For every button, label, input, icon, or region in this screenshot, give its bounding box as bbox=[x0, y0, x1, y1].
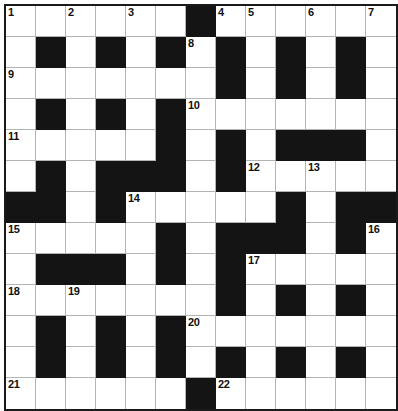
crossword-cell[interactable] bbox=[306, 285, 336, 316]
crossword-cell[interactable] bbox=[6, 316, 36, 347]
crossword-cell[interactable] bbox=[66, 99, 96, 130]
crossword-cell[interactable] bbox=[126, 37, 156, 68]
crossword-cell[interactable] bbox=[36, 130, 66, 161]
crossword-cell[interactable] bbox=[276, 99, 306, 130]
crossword-cell[interactable] bbox=[336, 254, 366, 285]
crossword-cell[interactable] bbox=[306, 316, 336, 347]
crossword-cell[interactable] bbox=[96, 68, 126, 99]
crossword-cell[interactable] bbox=[66, 68, 96, 99]
crossword-cell[interactable] bbox=[36, 68, 66, 99]
crossword-cell[interactable]: 14 bbox=[126, 192, 156, 223]
crossword-grid[interactable]: 12345678910111213141516171819202122 bbox=[4, 4, 398, 411]
crossword-cell[interactable] bbox=[186, 161, 216, 192]
crossword-cell[interactable] bbox=[126, 285, 156, 316]
crossword-cell[interactable] bbox=[246, 347, 276, 378]
crossword-cell[interactable] bbox=[336, 161, 366, 192]
crossword-cell[interactable] bbox=[126, 99, 156, 130]
crossword-cell[interactable] bbox=[66, 378, 96, 409]
crossword-cell[interactable]: 11 bbox=[6, 130, 36, 161]
crossword-cell[interactable] bbox=[66, 347, 96, 378]
crossword-cell[interactable] bbox=[66, 192, 96, 223]
crossword-cell[interactable] bbox=[186, 223, 216, 254]
crossword-cell[interactable]: 21 bbox=[6, 378, 36, 409]
crossword-cell[interactable] bbox=[156, 192, 186, 223]
crossword-cell[interactable]: 12 bbox=[246, 161, 276, 192]
crossword-cell[interactable] bbox=[366, 37, 396, 68]
crossword-cell[interactable] bbox=[366, 316, 396, 347]
crossword-cell[interactable] bbox=[186, 192, 216, 223]
crossword-cell[interactable]: 20 bbox=[186, 316, 216, 347]
crossword-cell[interactable] bbox=[246, 99, 276, 130]
crossword-cell[interactable] bbox=[246, 68, 276, 99]
crossword-cell[interactable] bbox=[36, 6, 66, 37]
crossword-cell[interactable]: 3 bbox=[126, 6, 156, 37]
crossword-cell[interactable] bbox=[96, 223, 126, 254]
crossword-cell[interactable]: 13 bbox=[306, 161, 336, 192]
crossword-cell[interactable] bbox=[306, 99, 336, 130]
crossword-cell[interactable] bbox=[306, 37, 336, 68]
crossword-cell[interactable] bbox=[186, 130, 216, 161]
crossword-cell[interactable] bbox=[36, 378, 66, 409]
crossword-cell[interactable] bbox=[276, 254, 306, 285]
crossword-cell[interactable] bbox=[126, 254, 156, 285]
crossword-cell[interactable] bbox=[6, 37, 36, 68]
crossword-cell[interactable] bbox=[336, 6, 366, 37]
crossword-cell[interactable] bbox=[96, 130, 126, 161]
crossword-cell[interactable] bbox=[126, 316, 156, 347]
crossword-cell[interactable] bbox=[276, 378, 306, 409]
crossword-cell[interactable] bbox=[186, 347, 216, 378]
crossword-cell[interactable] bbox=[156, 6, 186, 37]
crossword-cell[interactable] bbox=[216, 192, 246, 223]
crossword-cell[interactable] bbox=[366, 347, 396, 378]
crossword-cell[interactable] bbox=[306, 223, 336, 254]
crossword-cell[interactable]: 4 bbox=[216, 6, 246, 37]
crossword-cell[interactable] bbox=[276, 6, 306, 37]
crossword-cell[interactable] bbox=[246, 285, 276, 316]
crossword-cell[interactable]: 2 bbox=[66, 6, 96, 37]
crossword-cell[interactable] bbox=[36, 285, 66, 316]
crossword-cell[interactable] bbox=[366, 68, 396, 99]
crossword-cell[interactable] bbox=[216, 316, 246, 347]
crossword-cell[interactable] bbox=[336, 316, 366, 347]
crossword-cell[interactable] bbox=[6, 99, 36, 130]
crossword-cell[interactable] bbox=[306, 378, 336, 409]
crossword-cell[interactable] bbox=[336, 378, 366, 409]
crossword-cell[interactable] bbox=[306, 192, 336, 223]
crossword-cell[interactable] bbox=[366, 254, 396, 285]
crossword-cell[interactable] bbox=[36, 223, 66, 254]
crossword-cell[interactable] bbox=[126, 68, 156, 99]
crossword-cell[interactable] bbox=[246, 378, 276, 409]
crossword-cell[interactable] bbox=[96, 6, 126, 37]
crossword-cell[interactable] bbox=[66, 316, 96, 347]
crossword-cell[interactable] bbox=[276, 316, 306, 347]
crossword-cell[interactable] bbox=[126, 378, 156, 409]
crossword-cell[interactable] bbox=[126, 347, 156, 378]
crossword-cell[interactable] bbox=[366, 161, 396, 192]
crossword-cell[interactable] bbox=[126, 223, 156, 254]
crossword-cell[interactable] bbox=[366, 285, 396, 316]
crossword-cell[interactable] bbox=[6, 254, 36, 285]
crossword-cell[interactable] bbox=[336, 99, 366, 130]
crossword-cell[interactable] bbox=[156, 68, 186, 99]
crossword-cell[interactable] bbox=[246, 316, 276, 347]
crossword-cell[interactable]: 5 bbox=[246, 6, 276, 37]
crossword-cell[interactable]: 17 bbox=[246, 254, 276, 285]
crossword-cell[interactable] bbox=[6, 161, 36, 192]
crossword-cell[interactable] bbox=[186, 68, 216, 99]
crossword-cell[interactable] bbox=[276, 161, 306, 192]
crossword-cell[interactable]: 19 bbox=[66, 285, 96, 316]
crossword-cell[interactable] bbox=[306, 347, 336, 378]
crossword-cell[interactable] bbox=[156, 378, 186, 409]
crossword-cell[interactable] bbox=[246, 37, 276, 68]
crossword-cell[interactable]: 16 bbox=[366, 223, 396, 254]
crossword-cell[interactable] bbox=[246, 130, 276, 161]
crossword-cell[interactable]: 6 bbox=[306, 6, 336, 37]
crossword-cell[interactable] bbox=[186, 285, 216, 316]
crossword-cell[interactable] bbox=[66, 223, 96, 254]
crossword-cell[interactable] bbox=[366, 378, 396, 409]
crossword-cell[interactable] bbox=[66, 161, 96, 192]
crossword-cell[interactable] bbox=[246, 192, 276, 223]
crossword-cell[interactable]: 8 bbox=[186, 37, 216, 68]
crossword-cell[interactable] bbox=[96, 378, 126, 409]
crossword-cell[interactable] bbox=[186, 254, 216, 285]
